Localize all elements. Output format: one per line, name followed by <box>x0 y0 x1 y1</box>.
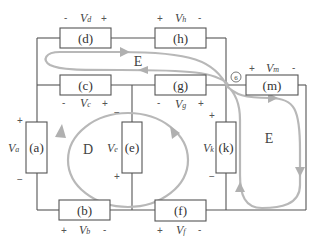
element-m: (m) + Vm - <box>246 61 298 95</box>
svg-text:Vb: Vb <box>79 223 90 237</box>
svg-text:+: + <box>17 115 23 126</box>
element-k: (k) + Vk − <box>203 110 236 182</box>
svg-text:6: 6 <box>234 74 238 82</box>
svg-text:Vc: Vc <box>80 96 91 110</box>
svg-text:(h): (h) <box>173 31 188 46</box>
loop-e-top-arrow-right <box>120 47 130 57</box>
loop-label-d: D <box>83 142 93 157</box>
svg-text:-: - <box>64 12 67 23</box>
svg-text:-: - <box>292 62 295 73</box>
svg-text:Va: Va <box>8 141 19 155</box>
svg-text:-: - <box>157 97 160 108</box>
svg-text:+: + <box>102 98 108 109</box>
svg-text:+: + <box>249 63 255 74</box>
svg-text:(e): (e) <box>125 140 139 155</box>
svg-text:(k): (k) <box>218 140 233 155</box>
svg-text:−: − <box>114 107 120 118</box>
loop-d-arrow-up <box>55 124 66 138</box>
svg-text:(c): (c) <box>78 78 92 93</box>
circuit-diagram: (d) - Vd + (h) + Vh - (c) - Vc + (g) - V… <box>0 0 321 245</box>
svg-text:Vg: Vg <box>175 97 186 111</box>
svg-text:(m): (m) <box>263 78 282 93</box>
loop-e-right-arrow-down <box>295 167 305 177</box>
svg-text:Vm: Vm <box>266 61 279 75</box>
svg-text:-: - <box>198 12 201 23</box>
svg-text:Vk: Vk <box>203 141 214 155</box>
svg-text:Ve: Ve <box>107 141 118 155</box>
svg-text:+: + <box>114 171 120 182</box>
element-e: (e) − Ve + <box>107 107 142 182</box>
element-d: (d) - Vd + <box>60 11 111 48</box>
svg-text:(f): (f) <box>174 203 187 218</box>
svg-text:(a): (a) <box>29 140 43 155</box>
element-c: (c) - Vc + <box>60 75 111 110</box>
svg-text:+: + <box>101 13 107 24</box>
loop-label-e-right: E <box>265 131 274 146</box>
svg-text:+: + <box>157 225 163 236</box>
svg-text:-: - <box>198 224 201 235</box>
svg-text:(b): (b) <box>77 203 92 218</box>
svg-text:(g): (g) <box>173 78 188 93</box>
loop-d-arrow-right <box>170 126 180 139</box>
svg-text:−: − <box>209 171 215 182</box>
svg-text:-: - <box>103 224 106 235</box>
loop-e-right-arrow-up <box>235 182 245 192</box>
node-6: 6 <box>231 72 241 82</box>
loop-label-e-top: E <box>134 54 143 69</box>
svg-text:+: + <box>61 225 67 236</box>
element-b: (b) + Vb - <box>59 200 110 237</box>
svg-text:(d): (d) <box>78 31 93 46</box>
element-g: (g) - Vg + <box>155 75 206 111</box>
element-f: (f) + Vf - <box>155 200 206 237</box>
element-a: (a) + Va − <box>8 115 47 185</box>
svg-text:+: + <box>157 13 163 24</box>
svg-text:Vf: Vf <box>176 223 187 237</box>
svg-text:+: + <box>198 98 204 109</box>
svg-text:Vh: Vh <box>175 11 186 25</box>
svg-text:+: + <box>209 110 215 121</box>
svg-text:Vd: Vd <box>80 11 92 25</box>
svg-text:-: - <box>62 97 65 108</box>
svg-text:−: − <box>17 174 23 185</box>
element-h: (h) + Vh - <box>155 11 206 48</box>
